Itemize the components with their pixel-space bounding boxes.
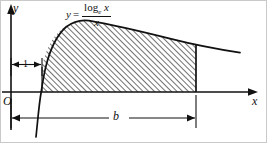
equation-log-base: e <box>98 8 101 16</box>
plot-canvas <box>0 0 267 143</box>
width-label-gap <box>109 112 129 124</box>
equation-fraction: loge xx <box>82 2 111 28</box>
width-dimension-arrow-left <box>12 115 20 122</box>
equation-log-argument: x <box>104 1 109 13</box>
equation-numerator: loge x <box>82 2 111 17</box>
unit-dimension-arrow-right <box>34 61 41 67</box>
equation-log-operator: log <box>84 1 98 13</box>
unit-dimension-arrow-left <box>12 61 19 67</box>
origin-label: O <box>3 95 12 107</box>
x-axis-label: x <box>252 95 257 107</box>
equation-lhs: y <box>66 8 71 20</box>
y-axis-label: y <box>13 2 18 14</box>
equation-equals-sign: = <box>73 8 79 20</box>
width-dimension-label: b <box>113 110 119 122</box>
function-equation-label: y=loge xx <box>66 2 111 28</box>
unit-dimension-label: 1 <box>23 59 28 69</box>
figure-container: y x O 1 b y=loge xx <box>0 0 267 143</box>
equation-denominator: x <box>82 17 111 28</box>
width-dimension-arrow-right <box>187 115 195 122</box>
